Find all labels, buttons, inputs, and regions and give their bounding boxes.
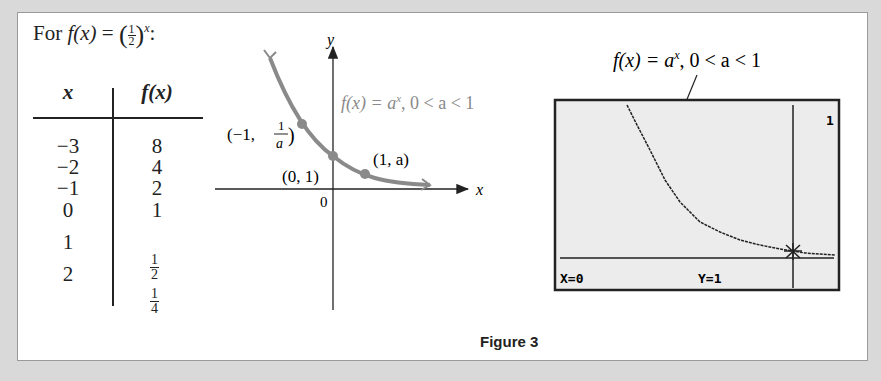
- point-label-0: (0, 1): [282, 167, 319, 186]
- table-header-divider: [33, 117, 203, 119]
- table-cell-x: 0: [38, 198, 98, 223]
- table-header-fx: f(x): [122, 80, 192, 105]
- point-label-1: (1, a): [373, 150, 409, 169]
- point-1: [360, 169, 370, 179]
- intro-func: f(x): [67, 21, 96, 45]
- point-label-neg1-suffix: ): [288, 124, 295, 147]
- table-cell-x: 2: [38, 262, 98, 287]
- point-label-neg1-num: 1: [278, 118, 285, 133]
- intro-base-fraction: 12: [128, 24, 136, 47]
- table-cell-fx: 1: [127, 198, 187, 223]
- point-neg1: [297, 119, 307, 129]
- point-0: [328, 151, 338, 161]
- exponential-sketch: y x 0 f(x) = ax, 0 < a < 1 (−1, 1 a ) (0…: [210, 20, 540, 320]
- trace-cursor-icon: [784, 243, 802, 260]
- calc-annotation: f(x) = ax, 0 < a < 1: [613, 48, 761, 72]
- calculator-screen: f(x) = ax, 0 < a < 1 1 X=0 Y=1: [540, 30, 850, 300]
- x-axis-label: x: [475, 181, 483, 198]
- curve-arrow-left-icon: [264, 50, 276, 58]
- table-cell-x: 1: [38, 230, 98, 255]
- table-cell-fx-fraction: 12: [150, 253, 159, 282]
- intro-suffix: :: [150, 21, 156, 45]
- point-label-neg1: (−1,: [227, 125, 255, 144]
- intro-equals: =: [97, 21, 119, 45]
- function-definition: For f(x) = (12)x:: [33, 20, 155, 50]
- point-label-neg1-den: a: [276, 136, 283, 151]
- table-cell-fx-fraction: 14: [150, 287, 159, 316]
- intro-prefix: For: [33, 21, 67, 45]
- table-header-x: x: [38, 80, 98, 105]
- calc-screen-rect: [555, 100, 839, 290]
- calc-y-readout: Y=1: [698, 271, 722, 286]
- calc-corner-label: 1: [826, 113, 834, 128]
- y-axis-label: y: [325, 31, 335, 49]
- figure-caption: Figure 3: [480, 333, 538, 350]
- table-column-divider: [112, 88, 114, 306]
- origin-label: 0: [320, 194, 328, 210]
- sketch-func-label: f(x) = ax, 0 < a < 1: [341, 92, 474, 114]
- calc-x-readout: X=0: [560, 271, 584, 286]
